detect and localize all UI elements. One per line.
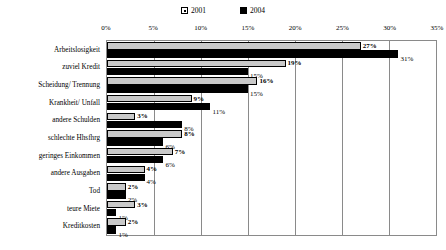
y-axis-category-labels: Arbeitslosigkeitzuviel KreditScheidung/ …: [0, 40, 103, 236]
bar-value-label: 31%: [400, 55, 413, 63]
category-label: Kreditkosten: [63, 222, 100, 230]
category-label: zuviel Kredit: [62, 63, 100, 71]
x-tick-label: 0%: [101, 24, 110, 32]
bar-2004: [107, 226, 116, 234]
bar-2004: [107, 50, 398, 58]
bar-2001: [107, 113, 135, 121]
bar-chart: 2001 2004 0%5%10%15%20%25%30%35% Arbeits…: [0, 0, 446, 250]
x-tick-label: 10%: [194, 24, 207, 32]
category-label: andere Ausgaben: [51, 169, 100, 177]
bar-value-label: 2%: [128, 218, 139, 226]
bar-2001: [107, 42, 361, 50]
x-axis-tick-labels: 0%5%10%15%20%25%30%35%: [106, 24, 437, 36]
bar-2004: [107, 174, 145, 182]
category-label: Scheidung/ Trennung: [38, 81, 100, 89]
bar-value-label: 3%: [137, 112, 148, 120]
x-tick-label: 35%: [431, 24, 444, 32]
bar-2004: [107, 85, 248, 93]
bar-value-label: 4%: [147, 165, 158, 173]
bar-2004: [107, 156, 163, 164]
x-tick-label: 20%: [289, 24, 302, 32]
category-label: geringes Einkommen: [39, 152, 100, 160]
bar-value-label: 1%: [118, 231, 127, 239]
bar-2004: [107, 121, 182, 129]
legend-swatch-2001-icon: [181, 7, 188, 14]
bar-value-label: 6%: [165, 161, 174, 169]
chart-legend: 2001 2004: [0, 7, 446, 15]
bar-2001: [107, 95, 192, 103]
x-tick-label: 30%: [383, 24, 396, 32]
bar-value-label: 8%: [184, 130, 195, 138]
bar-value-label: 11%: [212, 108, 225, 116]
bar-2004: [107, 191, 126, 199]
bar-value-label: 4%: [147, 178, 156, 186]
bar-value-label: 15%: [250, 90, 263, 98]
bars-layer: 27%31%19%15%16%15%9%11%3%8%8%6%7%6%4%4%2…: [107, 41, 436, 235]
legend-entry-2001: 2001: [181, 7, 206, 15]
bar-2001: [107, 166, 145, 174]
bar-value-label: 9%: [194, 95, 205, 103]
bar-value-label: 2%: [128, 183, 139, 191]
category-label: andere Schulden: [52, 116, 100, 124]
category-label: Arbeitslosigkeit: [54, 46, 100, 54]
bar-2001: [107, 218, 126, 226]
bar-2001: [107, 201, 135, 209]
legend-swatch-2004-icon: [240, 7, 247, 14]
bar-2001: [107, 148, 173, 156]
category-label: Krankheit/ Unfall: [49, 99, 100, 107]
bar-value-label: 19%: [288, 59, 302, 67]
bar-2004: [107, 103, 210, 111]
bar-value-label: 7%: [175, 148, 186, 156]
bar-2004: [107, 68, 248, 76]
legend-label-2001: 2001: [191, 7, 206, 15]
bar-value-label: 27%: [363, 42, 377, 50]
bar-2004: [107, 138, 163, 146]
bar-value-label: 16%: [259, 77, 273, 85]
category-label: Tod: [89, 187, 100, 195]
category-label: teure Miete: [67, 205, 100, 213]
bar-2001: [107, 183, 126, 191]
bar-2001: [107, 130, 182, 138]
bar-2001: [107, 77, 257, 85]
bar-2004: [107, 209, 116, 217]
x-tick-label: 5%: [149, 24, 158, 32]
legend-label-2004: 2004: [250, 7, 265, 15]
x-tick-label: 25%: [336, 24, 349, 32]
bar-2001: [107, 60, 286, 68]
category-label: schlechte Hhsfhrg: [48, 134, 100, 142]
legend-entry-2004: 2004: [240, 7, 265, 15]
bar-value-label: 3%: [137, 201, 148, 209]
x-tick-label: 15%: [241, 24, 254, 32]
